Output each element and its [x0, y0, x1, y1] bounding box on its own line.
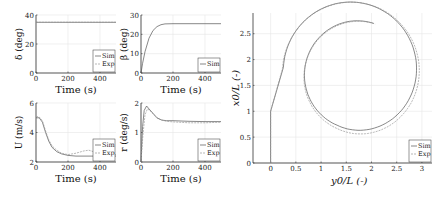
- legend: Sim: [198, 58, 220, 72]
- panel-r: 0200400012Time (s)r (deg/s)SimExp: [119, 100, 221, 185]
- figure: 020040002040Time (s)δ (deg)SimExp0200400…: [0, 0, 444, 200]
- x-axis-label: y0/L (-): [330, 175, 367, 186]
- x-tick-label: 0: [139, 75, 143, 83]
- x-tick-label: 0: [34, 75, 38, 83]
- legend-entry-sim: Sim: [207, 141, 220, 149]
- y-tick-label: 20: [130, 31, 139, 39]
- x-tick-label: 200: [61, 164, 74, 172]
- y-tick-label: 0: [135, 70, 139, 78]
- x-tick-label: 400: [198, 75, 211, 83]
- x-tick-label: 200: [166, 164, 179, 172]
- x-tick-label: 2: [369, 165, 373, 173]
- panel-U: 0200400246Time (s)U (m/s)SimExp: [14, 100, 116, 185]
- x-tick-label: 0.5: [290, 165, 301, 173]
- y-tick-label: 30: [130, 12, 139, 20]
- panel-delta: 020040002040Time (s)δ (deg)SimExp: [14, 12, 116, 96]
- y-tick-label: 2: [247, 56, 251, 64]
- x-axis-label: Time (s): [160, 173, 201, 184]
- series-sim: [271, 2, 417, 163]
- x-tick-label: 3: [420, 165, 424, 173]
- legend-entry-sim: Sim: [102, 52, 115, 60]
- y-tick-label: 10: [130, 50, 139, 58]
- x-tick-label: 400: [93, 164, 106, 172]
- x-axis-label: Time (s): [55, 173, 96, 184]
- legend: SimExp: [93, 50, 115, 72]
- y-axis-label: β (deg): [119, 28, 129, 60]
- y-tick-label: 40: [25, 12, 34, 20]
- x-tick-label: 200: [61, 75, 74, 83]
- y-tick-label: 1.5: [240, 82, 251, 90]
- x-tick-label: 400: [198, 164, 211, 172]
- y-tick-label: 0: [30, 70, 34, 78]
- y-axis-label: U (m/s): [14, 116, 24, 150]
- y-tick-label: 0.5: [240, 134, 251, 142]
- y-tick-label: 1: [135, 129, 139, 137]
- legend-entry-sim: Sim: [418, 142, 431, 150]
- panel-trajectory: 00.511.522.5300.511.522.5y0/L (-)x0/L (-…: [230, 2, 432, 186]
- y-tick-label: 0: [135, 159, 139, 167]
- grid: [253, 13, 432, 163]
- legend: SimExp: [93, 139, 115, 161]
- legend-entry-exp: Exp: [102, 149, 115, 157]
- legend: SimExp: [409, 140, 431, 162]
- x-tick-label: 0: [139, 164, 143, 172]
- y-axis-label: r (deg/s): [119, 113, 129, 152]
- x-tick-label: 400: [93, 75, 106, 83]
- legend: SimExp: [198, 139, 220, 161]
- x-tick-label: 2.5: [391, 165, 402, 173]
- legend-entry-sim: Sim: [102, 141, 115, 149]
- y-tick-label: 1: [247, 108, 251, 116]
- x-tick-label: 0: [34, 164, 38, 172]
- legend-entry-exp: Exp: [418, 150, 431, 158]
- y-axis-label: δ (deg): [14, 28, 24, 60]
- y-tick-label: 6: [30, 100, 35, 108]
- legend-entry-exp: Exp: [207, 149, 220, 157]
- y-tick-label: 2: [135, 100, 139, 108]
- y-tick-label: 2.5: [240, 30, 251, 38]
- y-axis-label: x0/L (-): [230, 70, 241, 106]
- y-tick-label: 0: [247, 160, 251, 168]
- x-tick-label: 0: [268, 165, 272, 173]
- legend-entry-exp: Exp: [102, 60, 115, 68]
- panel-beta: 02004000102030Time (s)β (deg)Sim: [119, 12, 221, 96]
- x-tick-label: 1: [319, 165, 323, 173]
- legend-entry-sim: Sim: [207, 60, 220, 68]
- y-tick-label: 2: [30, 159, 34, 167]
- x-tick-label: 200: [166, 75, 179, 83]
- x-axis-label: Time (s): [160, 84, 201, 95]
- y-tick-label: 4: [30, 129, 35, 137]
- x-tick-label: 1.5: [341, 165, 352, 173]
- y-tick-label: 20: [25, 41, 34, 49]
- x-axis-label: Time (s): [55, 84, 96, 95]
